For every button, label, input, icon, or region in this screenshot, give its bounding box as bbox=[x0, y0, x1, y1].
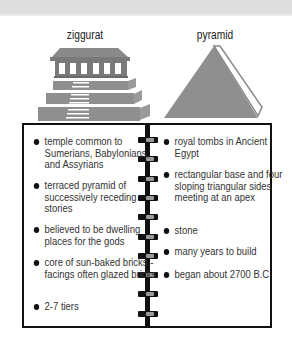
ziggurat-tier-3-side bbox=[140, 104, 150, 120]
bullet-icon bbox=[34, 139, 39, 145]
pyramid-fact-text: rectangular base and four sloping triang… bbox=[175, 168, 283, 203]
ziggurat-fact-text: 2-7 tiers bbox=[45, 300, 79, 312]
ziggurat-fact-text: terraced pyramid of successively recedin… bbox=[45, 179, 137, 214]
ziggurat-tier-1-side bbox=[128, 78, 136, 90]
illustrations bbox=[0, 0, 292, 124]
ziggurat-tier-1 bbox=[53, 81, 128, 90]
ziggurat-fact-item: believed to be dwelling places for the g… bbox=[32, 224, 159, 257]
pyramid-facts-column: royal tombs in Ancient Egypt rectangular… bbox=[162, 136, 266, 283]
bullet-icon bbox=[34, 260, 39, 266]
ziggurat-fact-item: 2-7 tiers bbox=[32, 301, 159, 315]
bullet-icon bbox=[164, 139, 169, 145]
ziggurat-facts-column: temple common to Sumerians, Babylonians,… bbox=[32, 136, 140, 315]
pyramid-fact-item: many years to build bbox=[162, 246, 285, 269]
pyramid-fact-item: rectangular base and four sloping triang… bbox=[162, 169, 285, 225]
ziggurat-fact-item: temple common to Sumerians, Babylonians,… bbox=[32, 136, 159, 180]
ziggurat-fact-item: terraced pyramid of successively recedin… bbox=[32, 180, 159, 224]
pyramid-fact-item: stone bbox=[162, 225, 285, 246]
ziggurat-fact-text: core of sun-baked bricks - facings often… bbox=[45, 256, 156, 280]
pyramid-fact-text: began about 2700 B.C. bbox=[175, 268, 272, 280]
ziggurat-tier-2-side bbox=[134, 90, 142, 104]
pyramid-fact-item: began about 2700 B.C. bbox=[162, 269, 285, 283]
pyramid-fact-text: stone bbox=[175, 224, 198, 236]
bullet-icon bbox=[34, 183, 39, 189]
pyramid-fact-text: royal tombs in Ancient Egypt bbox=[175, 135, 267, 159]
bullet-icon bbox=[164, 272, 169, 278]
ziggurat-tier-2 bbox=[46, 93, 134, 104]
bullet-icon bbox=[164, 228, 169, 234]
pyramid-illustration bbox=[164, 46, 262, 118]
bullet-icon bbox=[34, 304, 39, 310]
pyramid-fact-text: many years to build bbox=[175, 245, 257, 257]
ziggurat-roof bbox=[52, 48, 128, 57]
ziggurat-fact-text: believed to be dwelling places for the g… bbox=[45, 223, 141, 247]
pyramid-fact-item: royal tombs in Ancient Egypt bbox=[162, 136, 285, 169]
bullet-icon bbox=[164, 172, 169, 178]
ziggurat-fact-text: temple common to Sumerians, Babylonians,… bbox=[45, 135, 150, 170]
ziggurat-fact-item: core of sun-baked bricks - facings often… bbox=[32, 257, 159, 301]
bullet-icon bbox=[164, 249, 169, 255]
ziggurat-roof-ledge bbox=[50, 57, 130, 61]
ziggurat-illustration bbox=[38, 48, 150, 121]
bullet-icon bbox=[34, 227, 39, 233]
comparison-notebook: temple common to Sumerians, Babylonians,… bbox=[22, 123, 272, 328]
